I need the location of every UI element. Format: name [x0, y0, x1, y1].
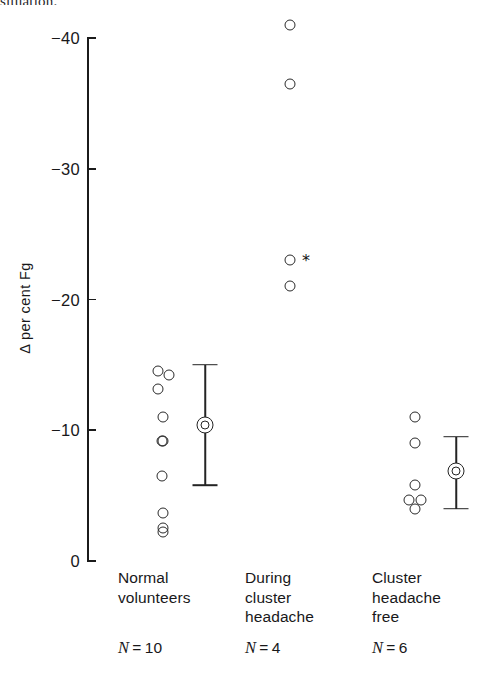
y-axis-tick-label: −10: [51, 421, 80, 440]
group-label-line: cluster: [245, 588, 365, 608]
data-point: [157, 471, 168, 482]
error-bar-cap: [444, 508, 469, 510]
group-sample-size: N = 6: [372, 638, 407, 658]
group-label: Clusterheadachefree: [372, 568, 492, 627]
data-point: [158, 507, 169, 518]
mean-marker-inner: [201, 421, 210, 430]
error-bar-cap: [444, 436, 469, 438]
data-point: [410, 438, 421, 449]
group-sample-size: N = 10: [118, 638, 162, 658]
page-bleed-text: situation.: [0, 0, 190, 5]
data-point: [285, 19, 296, 30]
y-axis-tick-label: −20: [51, 290, 80, 309]
y-axis-title: Δ per cent Fg: [17, 228, 33, 388]
group-label-line: Normal: [118, 568, 238, 588]
data-point: [410, 412, 421, 423]
data-point: [164, 369, 175, 380]
data-point: [285, 255, 296, 266]
y-axis-tick: [87, 299, 96, 301]
data-point: [158, 412, 169, 423]
group-label-line: Cluster: [372, 568, 492, 588]
error-bar-cap: [193, 484, 218, 486]
data-point: [410, 503, 421, 514]
y-axis-tick: [87, 168, 96, 170]
data-point: [285, 78, 296, 89]
group-label-line: free: [372, 607, 492, 627]
group-label: Normalvolunteers: [118, 568, 238, 607]
y-axis-tick-label: 0: [71, 552, 80, 571]
scatter-plot-figure: situation. −40−30−20−100 Δ per cent Fg *…: [0, 0, 493, 678]
significance-asterisk: *: [302, 253, 310, 269]
data-point: [153, 366, 164, 377]
y-axis-tick-label: −30: [51, 159, 80, 178]
group-label-line: During: [245, 568, 365, 588]
group-label-line: volunteers: [118, 588, 238, 608]
group-label: Duringclusterheadache: [245, 568, 365, 627]
y-axis-tick: [87, 560, 96, 562]
data-point: [285, 281, 296, 292]
group-label-line: headache: [245, 607, 365, 627]
data-point: [153, 384, 164, 395]
data-point: [157, 435, 168, 446]
mean-marker-inner: [452, 466, 461, 475]
data-point: [158, 523, 169, 534]
data-point: [410, 480, 421, 491]
group-label-line: headache: [372, 588, 492, 608]
group-sample-size: N = 4: [245, 638, 280, 658]
y-axis-tick-label: −40: [51, 29, 80, 48]
error-bar-cap: [193, 364, 218, 366]
y-axis-tick: [87, 429, 96, 431]
y-axis-tick: [87, 37, 96, 39]
